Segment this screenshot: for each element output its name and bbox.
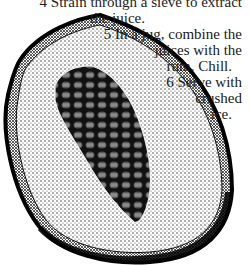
step-5-line-3: rum. Chill. <box>32 58 242 74</box>
step-5-line-2: juices with the <box>32 42 242 58</box>
step-5-line-1: 5 In a jug, combine the <box>32 26 242 42</box>
step-6-line-1: 6 Serve with <box>32 74 242 90</box>
step-4-line-1: 4 Strain through a sieve to extract <box>32 0 242 10</box>
step-6-line-3: ice. <box>32 106 242 122</box>
recipe-steps: 4 Strain through a sieve to extract the … <box>32 0 242 122</box>
recipe-page: 4 Strain through a sieve to extract the … <box>0 0 250 265</box>
step-4-line-2: the juice. <box>32 10 242 26</box>
step-6-line-2: crushed <box>32 90 242 106</box>
